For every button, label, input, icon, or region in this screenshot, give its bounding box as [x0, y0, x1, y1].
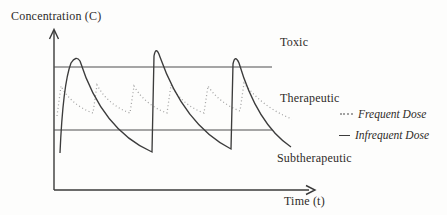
- legend-label-frequent-dose: Frequent Dose: [358, 108, 426, 120]
- zone-label-therapeutic: Therapeutic: [280, 91, 340, 106]
- figure: Concentration (C) Toxic Therapeutic Subt…: [0, 0, 447, 215]
- dotted-line-marker-icon: [340, 113, 353, 115]
- zone-label-subtherapeutic: Subtherapeutic: [277, 151, 352, 166]
- solid-line-marker-icon: [339, 135, 350, 136]
- legend-item-frequent-dose: Frequent Dose: [340, 108, 426, 120]
- y-axis-label: Concentration (C): [11, 9, 101, 24]
- zone-label-toxic: Toxic: [280, 35, 308, 50]
- legend-item-infrequent-dose: Infrequent Dose: [339, 129, 429, 141]
- x-axis-label: Time (t): [284, 194, 325, 209]
- frequent-dose-curve: [57, 83, 292, 119]
- infrequent-dose-curve: [60, 51, 291, 153]
- legend-label-infrequent-dose: Infrequent Dose: [355, 129, 429, 141]
